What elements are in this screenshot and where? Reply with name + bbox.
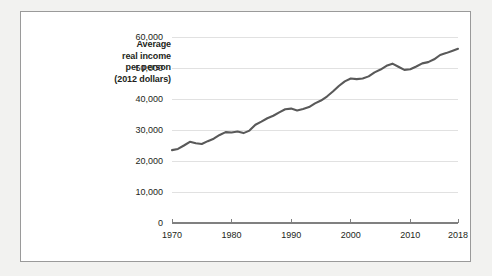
- x-axis-tick-label: 2010: [400, 230, 420, 240]
- data-series-line: [172, 49, 458, 150]
- x-axis-tick-labels: 197019801990200020102018: [162, 230, 468, 240]
- series-path: [172, 49, 458, 150]
- y-axis-tick-label: 50,000: [135, 63, 163, 73]
- chart-plot: 010,00020,00030,00040,00050,00060,000 19…: [21, 12, 472, 263]
- y-axis-tick-labels: 010,00020,00030,00040,00050,00060,000: [135, 32, 163, 228]
- figure-root: Average real income per person (2012 dol…: [0, 0, 492, 276]
- gridlines: [172, 37, 458, 192]
- y-axis-tick-label: 20,000: [135, 156, 163, 166]
- y-axis-tick-label: 40,000: [135, 94, 163, 104]
- y-axis-tick-label: 30,000: [135, 125, 163, 135]
- x-axis-tick-label: 1990: [281, 230, 301, 240]
- x-axis-tick-label: 1970: [162, 230, 182, 240]
- x-axis-tick-label: 2000: [341, 230, 361, 240]
- y-axis-tick-label: 10,000: [135, 187, 163, 197]
- x-axis-tick-label: 2018: [448, 230, 468, 240]
- chart-panel: Average real income per person (2012 dol…: [20, 11, 471, 262]
- y-axis-tick-label: 60,000: [135, 32, 163, 42]
- x-axis: [172, 219, 458, 223]
- x-axis-tick-label: 1980: [222, 230, 242, 240]
- y-axis-tick-label: 0: [158, 218, 163, 228]
